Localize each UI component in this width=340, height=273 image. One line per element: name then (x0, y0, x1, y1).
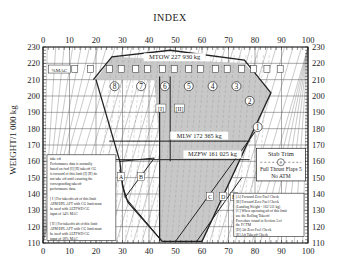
point-label-I: [I] (158, 106, 164, 113)
region-number: 5 (187, 82, 191, 91)
trim-marker-box (88, 66, 94, 73)
x-tick-bottom: 10 (65, 246, 74, 256)
y-tick-right: 120 (312, 222, 325, 232)
legend-note-line: [D] Aft Zero Fuel Check (236, 228, 272, 232)
hatch-line (119, 55, 135, 240)
region-number: 1 (256, 123, 260, 132)
trim-marker-box (133, 66, 139, 73)
trim-marker-box (186, 66, 192, 73)
x-tick-bottom: 30 (118, 246, 127, 256)
takeoff-note-line: [ I ] For takeoffs aft of this limit (50, 197, 96, 201)
weight-balance-chart: 0010102020303040405050606070708080909010… (0, 0, 340, 273)
x-tick-top: 80 (251, 35, 260, 45)
takeoff-note-line: APM/DPL AFT with CG limit must (50, 202, 102, 206)
x-tick-top: 20 (92, 35, 101, 45)
takeoff-note-line: be used with ALTFWD CG (50, 232, 90, 236)
y-tick-right: 220 (312, 58, 325, 68)
x-tick-top: 50 (171, 35, 180, 45)
y-tick-right: 150 (312, 173, 325, 183)
y-tick-left: 110 (28, 238, 40, 248)
y-tick-left: 170 (27, 140, 40, 150)
takeoff-note-line: performance data. (50, 187, 76, 191)
takeoff-note-line: take off (50, 157, 62, 161)
takeoff-note-line: not take off until ensuring the (50, 177, 93, 181)
takeoff-note-line: input of 14% MAC (50, 212, 78, 216)
y-tick-right: 130 (312, 205, 325, 215)
region-number: 3 (235, 82, 239, 91)
trim-marker-box (159, 66, 165, 73)
region-number: 6 (163, 82, 167, 91)
y-tick-left: 120 (27, 222, 40, 232)
x-tick-top: 70 (224, 35, 233, 45)
mtow-label: MTOW 227 930 kg (149, 53, 201, 60)
x-tick-top: 40 (145, 35, 154, 45)
y-tick-right: 180 (312, 124, 325, 134)
legend-note-line: use the Rolling Takeoff (236, 214, 270, 218)
region-number: 2 (248, 97, 252, 106)
legend-note-line: the FCTM (236, 223, 252, 227)
region-number: 7 (139, 82, 143, 91)
trim-marker-box (277, 66, 283, 73)
legend-note-line: Procedure found in Section 3 of (236, 219, 283, 223)
x-tick-bottom: 70 (224, 246, 233, 256)
trim-marker-box (106, 66, 112, 73)
trim-marker-box (251, 66, 257, 73)
point-label-A: A (119, 174, 124, 180)
y-tick-left: 190 (27, 107, 40, 117)
stab-trim-line2: Full Thrust Flaps 5 (260, 166, 302, 172)
mzfw-label: MZFW 161 025 kg (188, 150, 238, 157)
x-tick-bottom: 90 (277, 246, 286, 256)
trim-marker-box (224, 66, 230, 73)
x-tick-top: 60 (198, 35, 207, 45)
y-tick-right: 190 (312, 107, 325, 117)
stab-trim-title: Stab Trim (268, 150, 294, 157)
x-tick-top: 0 (41, 35, 45, 45)
x-tick-bottom: 80 (251, 246, 260, 256)
legend-note-line: (Landing Weight - 162 511 kg) (236, 205, 281, 209)
x-tick-top: 90 (277, 35, 286, 45)
y-tick-left: 230 (27, 42, 40, 52)
takeoff-note-line: input of 18% MAC (50, 237, 78, 241)
trim-marker-box (264, 66, 270, 73)
x-tick-bottom: 60 (198, 246, 207, 256)
takeoff-note-line: corresponding takeoff (50, 182, 82, 186)
takeoff-note-line: Performance data is normally (50, 162, 93, 166)
y-tick-left: 200 (27, 91, 40, 101)
y-tick-right: 230 (312, 42, 325, 52)
x-tick-top: 30 (118, 35, 127, 45)
trim-marker-box (145, 66, 151, 73)
trim-marker-box (171, 66, 177, 73)
y-tick-right: 200 (312, 91, 325, 101)
takeoff-note-line: based on fwd [I] [II] takeoff CG (50, 167, 97, 171)
legend-note-line: [E] Aft Takeoff Check (236, 233, 268, 237)
x-tick-top: 10 (65, 35, 74, 45)
takeoff-note-line: be used with ALTFWD CG (50, 207, 90, 211)
y-tick-left: 160 (27, 156, 40, 166)
hatch-line (143, 55, 159, 240)
point-label-C: C (208, 194, 212, 200)
y-tick-left: 210 (27, 75, 40, 85)
y-tick-left: 140 (27, 189, 40, 199)
trim-marker-box (212, 66, 218, 73)
mac-label: %MAC (52, 68, 68, 73)
y-tick-left: 150 (27, 173, 40, 183)
point-label-II: [II] (175, 106, 183, 113)
trim-marker-box (72, 66, 78, 73)
y-tick-left: 130 (27, 205, 40, 215)
legend-note-line: [A] Forward Zero Fuel Check (236, 195, 279, 199)
takeoff-note-line: APM/DPL AFT with CG limit must (50, 227, 102, 231)
y-tick-right: 110 (312, 238, 324, 248)
legend-note-line: [B] Forward Zero Fuel Check (236, 200, 279, 204)
legend-note-line: [C] When operating aft of this limit (236, 209, 287, 213)
y-tick-left: 220 (27, 58, 40, 68)
x-tick-bottom: 40 (145, 246, 154, 256)
takeoff-note-line: is forward of this limit [I] [II] do (50, 172, 97, 176)
region-number: 8 (113, 82, 117, 91)
stab-trim-line3: No ATM (271, 173, 291, 179)
takeoff-note-line: [ II ] For takeoffs aft of this limit (50, 222, 97, 226)
mlw-label: MLW 172 365 kg (177, 132, 223, 139)
y-tick-right: 170 (312, 140, 325, 150)
trim-marker-box (118, 66, 124, 73)
y-tick-right: 210 (312, 75, 325, 85)
y-tick-right: 160 (312, 156, 325, 166)
